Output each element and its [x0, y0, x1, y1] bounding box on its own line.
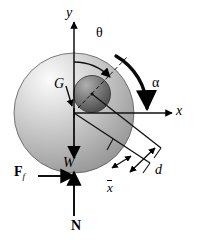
figure-canvas: y x θ α G W Ff N d x: [0, 0, 204, 242]
friction-label-symbol: F: [14, 164, 23, 179]
weight-label: W: [63, 156, 75, 170]
dimension-xbar-label: x: [107, 181, 113, 194]
friction-label-subscript: f: [23, 171, 26, 181]
normal-label: N: [71, 219, 81, 233]
dimension-xbar-arrow: [112, 156, 131, 168]
dimension-d-label: d: [155, 163, 162, 177]
alpha-label: α: [152, 76, 159, 90]
y-axis-label: y: [66, 6, 72, 20]
x-axis-label: x: [176, 104, 182, 118]
friction-label: Ff: [14, 165, 25, 181]
theta-label: θ: [96, 26, 103, 40]
center-of-gravity-label: G: [54, 77, 64, 91]
